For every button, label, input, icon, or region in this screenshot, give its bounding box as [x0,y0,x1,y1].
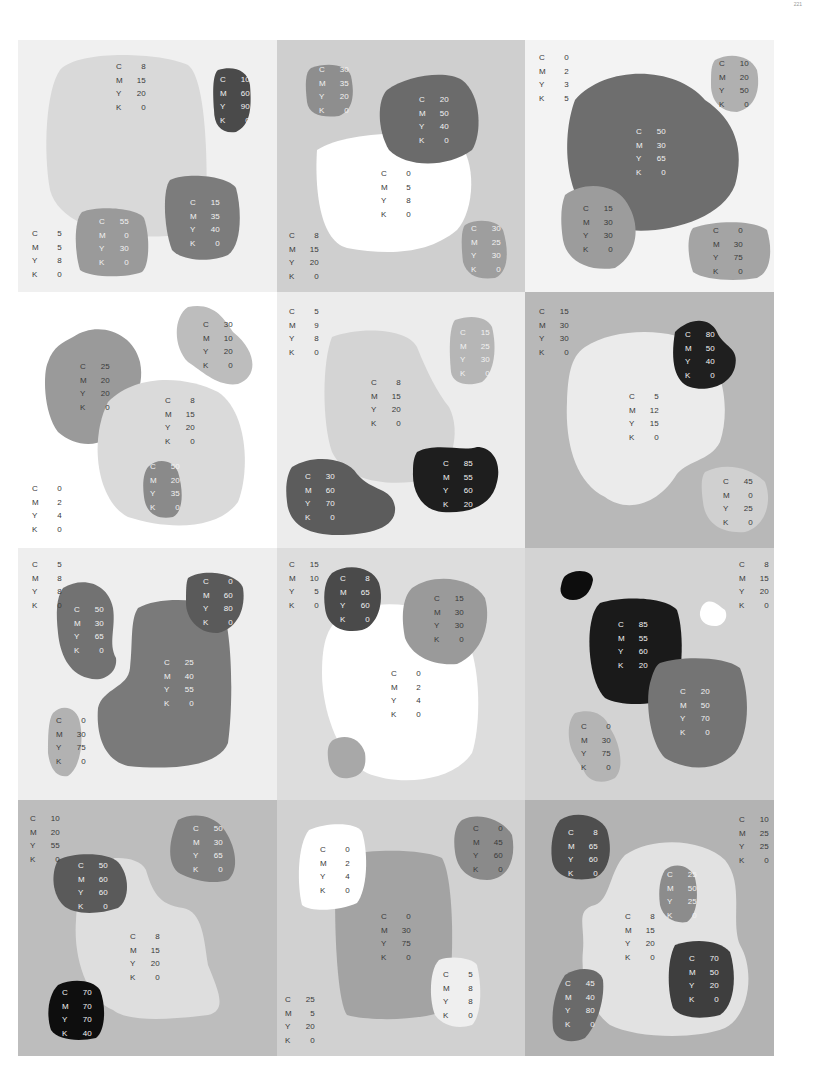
swatch-label-small-shape: C20 M50 Y70 K0 [680,685,710,739]
swatch-label-small-shape: C15 M30 Y30 K0 [583,202,613,256]
swatch-label-small-shape: C30 M60 Y70 K0 [305,470,335,524]
swatch-label-small-shape: C45 M0 Y25 K0 [723,475,753,529]
color-panel-r2c3: C15 M30 Y30 K0 C80 M50 Y40 K0 C5 M12 Y15… [525,292,774,548]
color-panel-r2c2: C5 M9 Y8 K0 C15 M25 Y30 K0 C8 M15 Y20 K0… [277,292,525,548]
swatch-label-small-shape: C50 M30 Y65 K0 [74,603,104,657]
swatch-label-small-shape: C45 M40 Y80 K0 [565,977,595,1031]
swatch-label-small-shape: C50 M30 Y65 K0 [193,822,223,876]
color-panel-r4c2: C0 M2 Y4 K0 C0 M45 Y60 K0 C0 M30 Y75 K0 … [277,800,525,1056]
swatch-label-large-shape: C0 M30 Y75 K0 [381,910,411,964]
swatch-label-small-shape: C5 M8 Y8 K0 [443,968,473,1022]
swatch-label-background: C5 M8 Y8 K0 [32,558,62,612]
swatch-label-background: C10 M25 Y25 K0 [739,813,769,867]
swatch-label-large-shape: C8 M15 Y20 K0 [165,394,195,448]
swatch-label-small-shape: C15 M30 Y30 K0 [434,592,464,646]
swatch-label-small-shape: C30 M25 Y30 K0 [471,222,501,276]
swatch-label-small-shape: C0 M60 Y80 K0 [203,575,233,629]
swatch-label-small-shape: C50 M60 Y60 K0 [78,859,108,913]
color-panel-r4c1: C10 M20 Y55 K0 C50 M60 Y60 K0 C50 M30 Y6… [18,800,277,1056]
swatch-label-small-shape: C70 M50 Y20 K0 [689,952,719,1006]
swatch-label-large-shape: C8 M15 Y20 K0 [130,930,160,984]
swatch-label-small-shape: C0 M2 Y4 K0 [320,843,350,897]
swatch-label-large-shape: C50 M30 Y65 K0 [636,125,666,179]
color-panel-r1c1: C5 M5 Y8 K0 C8 M15 Y20 K0 C10 M60 Y90 K0… [18,40,277,292]
swatch-label-small-shape: C8 M65 Y60 K0 [340,572,370,626]
swatch-label-small-shape: C85 M55 Y60 K20 [443,457,473,511]
swatch-label-background: C8 M15 Y20 K0 [289,229,319,283]
swatch-label-small-shape: C0 M45 Y60 K0 [473,822,503,876]
color-swatch-grid: C5 M5 Y8 K0 C8 M15 Y20 K0 C10 M60 Y90 K0… [18,40,774,1056]
swatch-label-small-shape: C20 M50 Y40 K0 [419,93,449,147]
swatch-label-large-shape: C5 M12 Y15 K0 [629,390,659,444]
swatch-label-background: C8 M15 Y20 K0 [739,558,769,612]
swatch-label-large-shape: C85 M55 Y60 K20 [618,618,648,672]
swatch-label-small-shape: C30 M35 Y20 K0 [319,63,349,117]
swatch-label-small-shape: C80 M50 Y40 K0 [685,328,715,382]
swatch-label-large-shape: C0 M2 Y4 K0 [391,667,421,721]
swatch-label-small-shape: C55 M0 Y30 K0 [99,215,129,269]
swatch-label-large-shape: C25 M40 Y55 K0 [164,656,194,710]
color-panel-r2c1: C25 M20 Y20 K0 C30 M10 Y20 K0 C8 M15 Y20… [18,292,277,548]
color-panel-r3c3: C8 M15 Y20 K0 C85 M55 Y60 K20 C20 M50 Y7… [525,548,774,800]
swatch-label-small-shape: C0 M30 Y75 K0 [713,224,743,278]
swatch-label-small-shape: C70 M70 Y70 K40 [62,986,92,1040]
swatch-label-large-shape: C8 M15 Y20 K0 [116,60,146,114]
swatch-label-small-shape: C25 M50 Y25 K0 [667,868,697,922]
color-panel-r4c3: C8 M65 Y60 K0 C10 M25 Y25 K0 C25 M50 Y25… [525,800,774,1056]
swatch-label-large-shape: C8 M15 Y20 K0 [371,376,401,430]
swatch-label-background: C25 M5 Y20 K0 [285,993,315,1047]
swatch-label-large-shape: C0 M5 Y8 K0 [381,167,411,221]
swatch-label-background: C0 M2 Y3 K5 [539,51,569,105]
swatch-label-background: C5 M5 Y8 K0 [32,227,62,281]
swatch-label-small-shape: C0 M30 Y75 K0 [56,714,86,768]
swatch-label-small-shape: C15 M25 Y30 K0 [460,326,490,380]
swatch-label-background: C0 M2 Y4 K0 [32,482,62,536]
swatch-label-small-shape: C30 M10 Y20 K0 [203,318,233,372]
color-panel-r1c3: C0 M2 Y3 K5 C10 M20 Y50 K0 C50 M30 Y65 K… [525,40,774,292]
page-number: 221 [794,1,802,7]
blob-shapes [525,548,774,800]
swatch-label-small-shape: C25 M20 Y20 K0 [80,360,110,414]
color-panel-r1c2: C30 M35 Y20 K0 C20 M50 Y40 K0 C0 M5 Y8 K… [277,40,525,292]
swatch-label-small-shape: C50 M20 Y35 K0 [150,460,180,514]
color-panel-r3c2: C15 M10 Y5 K0 C8 M65 Y60 K0 C15 M30 Y30 … [277,548,525,800]
swatch-label-small-shape: C10 M60 Y90 K0 [220,73,250,127]
swatch-label-small-shape: C15 M35 Y40 K0 [190,196,220,250]
swatch-label-background: C15 M10 Y5 K0 [289,558,319,612]
swatch-label-small-shape: C10 M20 Y50 K0 [719,57,749,111]
swatch-label-background: C10 M20 Y55 K0 [30,812,60,866]
swatch-label-small-shape: C0 M30 Y75 K0 [581,720,611,774]
swatch-label-large-shape: C8 M15 Y20 K0 [625,910,655,964]
swatch-label-background: C5 M9 Y8 K0 [289,305,319,359]
color-panel-r3c1: C5 M8 Y8 K0 C50 M30 Y65 K0 C0 M60 Y80 K0… [18,548,277,800]
swatch-label-small-shape: C8 M65 Y60 K0 [568,826,598,880]
swatch-label-background: C15 M30 Y30 K0 [539,305,569,359]
